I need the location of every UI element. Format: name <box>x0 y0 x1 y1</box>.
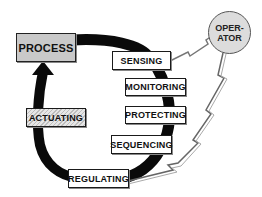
operator-circle: OPER- ATOR <box>208 11 251 54</box>
sequencing-box: SEQUENCING <box>111 135 172 154</box>
arrowhead-icon <box>32 61 54 75</box>
actuating-box: ACTUATING <box>26 108 86 127</box>
sensing-box: SENSING <box>112 51 171 70</box>
operator-label-line2: ATOR <box>217 33 242 43</box>
operator-link-sensing <box>168 36 212 62</box>
protecting-box: PROTECTING <box>125 106 186 124</box>
process-box: PROCESS <box>16 33 76 62</box>
operator-label-line1: OPER- <box>215 23 244 33</box>
regulating-box: REGULATING <box>68 169 129 188</box>
monitoring-box: MONITORING <box>125 78 186 96</box>
